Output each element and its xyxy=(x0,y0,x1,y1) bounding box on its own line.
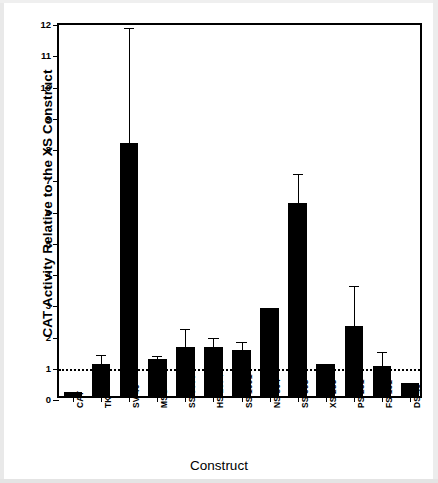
error-bar-cap xyxy=(124,28,134,29)
y-tick-label: 10 xyxy=(31,83,51,93)
y-tick-label: 4 xyxy=(31,270,51,280)
error-bar-cap xyxy=(349,286,359,287)
y-tick xyxy=(53,25,59,26)
y-tick-label: 12 xyxy=(31,20,51,30)
x-tick-label: NS 804 xyxy=(272,379,282,408)
error-bar-line xyxy=(185,329,186,351)
y-tick-label: 6 xyxy=(31,208,51,218)
error-bar-line xyxy=(242,342,243,354)
y-tick-label: 0 xyxy=(31,395,51,405)
error-bar-line xyxy=(213,338,214,351)
x-tick-label: PS 231 xyxy=(356,379,366,408)
error-bar-line xyxy=(354,286,355,330)
x-tick-label: HS 1674 xyxy=(215,374,225,408)
error-bar-line xyxy=(129,28,130,147)
y-tick-label: 1 xyxy=(31,364,51,374)
y-tick-label: 11 xyxy=(31,51,51,61)
x-tick-label: SV 40 xyxy=(131,384,141,408)
y-tick xyxy=(53,119,59,120)
error-bar-line xyxy=(298,174,299,207)
x-tick-label: DS 49 xyxy=(412,384,422,408)
x-tick-label: XS 285 xyxy=(328,379,338,408)
x-tick xyxy=(298,396,299,402)
x-tick xyxy=(326,396,327,402)
y-tick xyxy=(53,181,59,182)
x-tick-label: SS 3000 xyxy=(187,374,197,408)
x-axis-title: Construct xyxy=(0,458,438,473)
x-tick xyxy=(354,396,355,402)
x-tick xyxy=(242,396,243,402)
error-bar-cap xyxy=(96,355,106,356)
y-tick-label: 2 xyxy=(31,333,51,343)
x-tick xyxy=(410,396,411,402)
bar xyxy=(288,203,307,396)
error-bar-cap xyxy=(180,329,190,330)
x-tick xyxy=(101,396,102,402)
bar xyxy=(120,143,139,396)
y-tick-label: 8 xyxy=(31,145,51,155)
y-tick-label: 3 xyxy=(31,301,51,311)
x-tick xyxy=(270,396,271,402)
error-bar-cap xyxy=(377,352,387,353)
bar-chart-figure: CAT Activity Relative to the XS Construc… xyxy=(0,0,438,483)
y-tick xyxy=(53,275,59,276)
y-tick xyxy=(53,150,59,151)
y-tick-label: 7 xyxy=(31,176,51,186)
x-tick xyxy=(73,396,74,402)
y-tick xyxy=(53,338,59,339)
x-tick-label: SS 698 xyxy=(300,379,310,408)
y-tick xyxy=(53,56,59,57)
error-bar-cap xyxy=(236,342,246,343)
x-tick-label: FS 161 xyxy=(384,380,394,408)
plot-area: 0123456789101112 xyxy=(57,23,422,398)
x-tick-label: CAT xyxy=(75,391,85,408)
y-tick-label: 9 xyxy=(31,114,51,124)
error-bar-cap xyxy=(293,174,303,175)
y-tick-label: 5 xyxy=(31,239,51,249)
y-tick xyxy=(53,88,59,89)
y-tick xyxy=(53,213,59,214)
y-tick xyxy=(53,244,59,245)
bar xyxy=(92,364,111,396)
y-tick xyxy=(53,306,59,307)
error-bar-line xyxy=(101,355,102,368)
x-tick xyxy=(382,396,383,402)
error-bar-line xyxy=(157,356,158,363)
y-tick xyxy=(53,400,59,401)
error-bar-cap xyxy=(152,356,162,357)
x-tick-label: MSG xyxy=(159,388,169,408)
x-tick-label: SS 1091 xyxy=(244,374,254,408)
error-bar-line xyxy=(382,352,383,370)
x-tick-label: TK xyxy=(103,396,113,408)
error-bar-cap xyxy=(208,338,218,339)
